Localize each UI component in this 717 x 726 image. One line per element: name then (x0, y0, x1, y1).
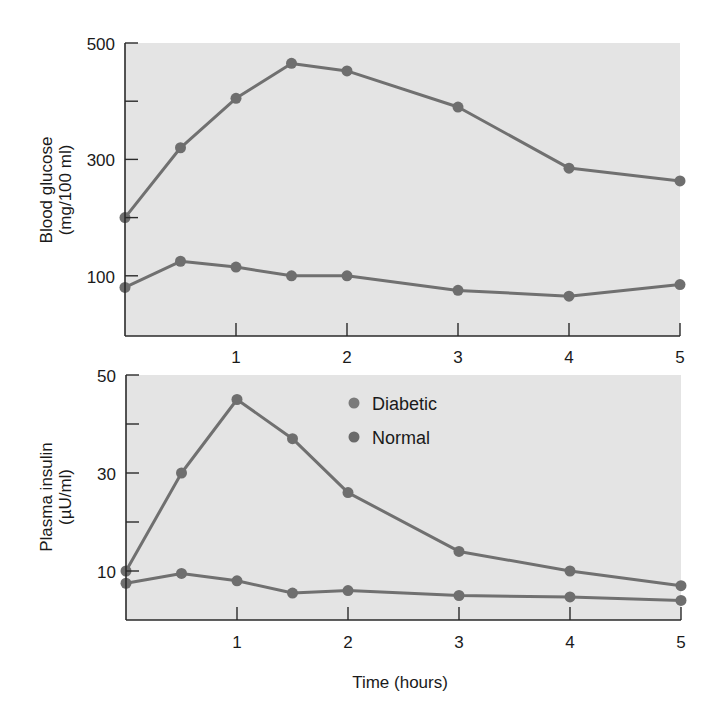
data-point-marker (287, 588, 298, 599)
x-tick-label: 5 (676, 633, 685, 652)
legend-marker-normal-icon (349, 432, 360, 443)
data-point-marker (453, 102, 464, 113)
y-axis-unit: (µU/ml) (56, 469, 75, 525)
y-tick-label: 10 (97, 563, 116, 582)
blood-glucose-chart: 10030050012345 Blood glucose (mg/100 ml) (37, 35, 686, 367)
y-axis-unit: (mg/100 ml) (56, 145, 75, 236)
data-point-marker (176, 468, 187, 479)
x-tick-label: 5 (675, 348, 684, 367)
legend-label-diabetic: Diabetic (372, 394, 437, 414)
x-tick-label: 2 (342, 348, 351, 367)
data-point-marker (454, 590, 465, 601)
data-point-marker (564, 163, 575, 174)
legend-marker-diabetic-icon (349, 398, 360, 409)
y-tick-label: 300 (87, 151, 115, 170)
x-tick-label: 3 (453, 348, 462, 367)
data-point-marker (343, 585, 354, 596)
data-point-marker (675, 175, 686, 186)
data-point-marker (453, 285, 464, 296)
x-tick-label: 1 (232, 633, 241, 652)
x-tick-label: 2 (343, 633, 352, 652)
y-axis-title: Plasma insulin (37, 442, 56, 552)
x-tick-label: 3 (454, 633, 463, 652)
data-point-marker (675, 279, 686, 290)
plasma-insulin-chart: 10305012345 Plasma insulin (µU/ml) Diabe… (37, 367, 687, 652)
data-point-marker (287, 433, 298, 444)
data-point-marker (676, 595, 687, 606)
data-point-marker (286, 58, 297, 69)
data-point-marker (565, 591, 576, 602)
y-tick-label: 500 (87, 35, 115, 54)
data-point-marker (565, 566, 576, 577)
x-tick-label: 4 (564, 348, 573, 367)
data-point-marker (342, 65, 353, 76)
data-point-marker (342, 270, 353, 281)
data-point-marker (232, 394, 243, 405)
data-point-marker (231, 262, 242, 273)
y-axis-title: Blood glucose (37, 137, 56, 244)
data-point-marker (676, 580, 687, 591)
data-point-marker (175, 142, 186, 153)
data-point-marker (343, 487, 354, 498)
data-point-marker (176, 568, 187, 579)
data-point-marker (175, 256, 186, 267)
figure: 10030050012345 Blood glucose (mg/100 ml)… (0, 0, 717, 726)
data-point-marker (286, 270, 297, 281)
x-tick-label: 4 (565, 633, 574, 652)
y-tick-label: 50 (97, 367, 116, 386)
y-tick-label: 100 (87, 268, 115, 287)
legend-label-normal: Normal (372, 428, 430, 448)
x-axis-title: Time (hours) (352, 673, 448, 692)
data-point-marker (564, 291, 575, 302)
x-tick-label: 1 (231, 348, 240, 367)
data-point-marker (231, 93, 242, 104)
y-tick-label: 30 (97, 465, 116, 484)
data-point-marker (454, 546, 465, 557)
data-point-marker (232, 575, 243, 586)
